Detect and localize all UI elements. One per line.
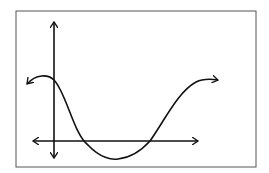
graph-diagram [0,0,269,173]
diagram-frame [16,11,256,167]
